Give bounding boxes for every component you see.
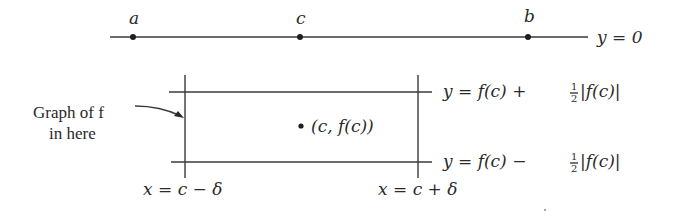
label-c-fc: (c, f(c)) [311,116,374,136]
number-line: a c b y = 0 [110,6,643,47]
lower-bound-label: y = f(c) − 1 2 |f(c)| [442,151,621,174]
lower-fraction-num: 1 [571,151,577,162]
point-a [130,34,136,40]
continuity-diagram: a c b y = 0 y = f(c) + 1 2 |f(c)| y = f(… [0,0,677,218]
point-c [297,34,303,40]
label-a: a [129,8,139,28]
annotation-line-2: in here [49,124,96,143]
upper-bound-label: y = f(c) + 1 2 |f(c)| [442,81,621,104]
label-x-c-plus-delta: x = c + δ [378,179,457,199]
svg-text:y = f(c) −: y = f(c) − [442,151,526,171]
arrow-head-icon [174,111,184,118]
lower-fraction-den: 2 [571,163,577,174]
label-b: b [524,6,535,26]
point-c-fc [298,123,303,128]
scan-speck [544,209,546,211]
arrow-shaft [135,106,181,116]
lower-abs-term: |f(c)| [580,151,621,171]
label-y-equals-0: y = 0 [596,27,643,47]
upper-abs-term: |f(c)| [580,81,621,101]
point-b [525,34,531,40]
annotation-line-1: Graph of f [33,103,104,122]
center-point: (c, f(c)) [298,116,373,136]
label-x-c-minus-delta: x = c − δ [143,179,222,199]
graph-annotation: Graph of f in here [33,103,184,143]
upper-fraction-num: 1 [571,81,577,92]
label-c: c [296,8,306,28]
upper-fraction-den: 2 [571,93,577,104]
svg-text:y = f(c) +: y = f(c) + [442,81,526,101]
upper-label-prefix: y = f(c) + [442,81,526,101]
lower-label-prefix: y = f(c) − [442,151,526,171]
